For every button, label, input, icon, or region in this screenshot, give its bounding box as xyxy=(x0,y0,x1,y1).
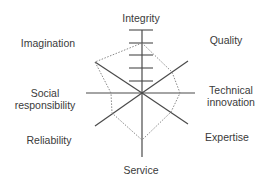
axis-imagination xyxy=(95,62,142,93)
label-social-responsibility: Social responsibility xyxy=(6,87,84,111)
label-integrity-text: Integrity xyxy=(116,12,166,24)
label-integrity: Integrity xyxy=(116,12,166,24)
label-service-text: Service xyxy=(116,164,166,176)
label-expertise: Expertise xyxy=(200,131,254,143)
profile-polygon xyxy=(95,43,180,140)
label-reliability-text: Reliability xyxy=(18,134,80,146)
label-expertise-text: Expertise xyxy=(200,131,254,143)
label-reliability: Reliability xyxy=(18,134,80,146)
label-technical-line1: Technical xyxy=(200,84,262,96)
scale-ticks xyxy=(129,30,153,81)
axis-reliability xyxy=(95,93,142,126)
radar-diagram: Integrity Quality Technical innovation E… xyxy=(0,0,266,182)
label-social-line1: Social xyxy=(6,87,84,99)
axes xyxy=(86,30,195,157)
axis-expertise xyxy=(142,93,188,124)
label-imagination-text: Imagination xyxy=(14,37,82,49)
label-technical-line2: innovation xyxy=(200,96,262,108)
label-quality: Quality xyxy=(202,34,250,46)
label-technical-innovation: Technical innovation xyxy=(200,84,262,108)
label-social-line2: responsibility xyxy=(6,99,84,111)
label-imagination: Imagination xyxy=(14,37,82,49)
label-service: Service xyxy=(116,164,166,176)
label-quality-text: Quality xyxy=(202,34,250,46)
axis-quality xyxy=(142,61,188,93)
